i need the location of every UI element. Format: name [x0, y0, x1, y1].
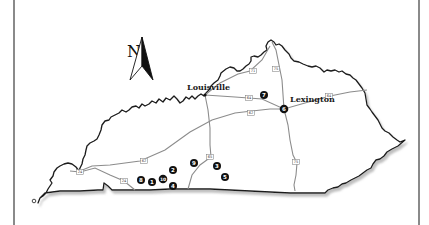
site-marker-3[interactable]: 3	[213, 162, 221, 170]
highway-shield: 71	[250, 69, 257, 74]
site-marker-4[interactable]: 4	[169, 182, 177, 190]
svg-text:75: 75	[274, 67, 279, 71]
highway-shield: 62	[248, 111, 255, 116]
kentucky-map: 71 75 64 64 62 65 75 62	[0, 0, 429, 225]
highway-shield: 24	[77, 170, 84, 175]
site-marker-10[interactable]: 10	[159, 175, 168, 184]
svg-text:1: 1	[150, 179, 154, 185]
city-label-lexington: Lexington	[290, 94, 335, 104]
svg-text:7: 7	[262, 92, 266, 98]
svg-text:24: 24	[78, 170, 83, 174]
highway-shield: 62	[141, 159, 148, 164]
highway-shield: 24	[121, 179, 128, 184]
svg-text:65: 65	[208, 155, 213, 159]
site-marker-2[interactable]: 2	[169, 166, 177, 174]
site-marker-5[interactable]: 5	[221, 173, 229, 181]
svg-text:8: 8	[139, 177, 143, 183]
site-marker-1[interactable]: 1	[148, 178, 156, 186]
highway-shield: 75	[293, 160, 300, 165]
highway-shield: 65	[207, 155, 214, 160]
site-marker-8[interactable]: 8	[137, 176, 145, 184]
site-marker-6[interactable]: 6	[280, 105, 289, 114]
svg-text:62: 62	[142, 159, 147, 163]
svg-text:10: 10	[160, 177, 166, 182]
highway-shield: 75	[273, 67, 280, 72]
river-island	[32, 199, 36, 203]
svg-text:24: 24	[122, 179, 127, 183]
svg-text:64: 64	[247, 96, 252, 100]
svg-text:5: 5	[223, 174, 227, 180]
svg-text:2: 2	[171, 167, 175, 173]
site-marker-9[interactable]: 9	[190, 159, 198, 167]
svg-text:6: 6	[282, 106, 286, 112]
svg-text:3: 3	[215, 163, 219, 169]
highway-shield: 64	[246, 96, 253, 101]
city-dot-louisville	[203, 93, 206, 96]
city-label-louisville: Louisville	[187, 82, 230, 92]
svg-text:75: 75	[294, 160, 299, 164]
svg-text:9: 9	[192, 160, 196, 166]
svg-text:62: 62	[249, 111, 254, 115]
svg-text:4: 4	[171, 183, 175, 189]
site-marker-7[interactable]: 7	[260, 91, 268, 99]
svg-text:71: 71	[251, 69, 256, 73]
